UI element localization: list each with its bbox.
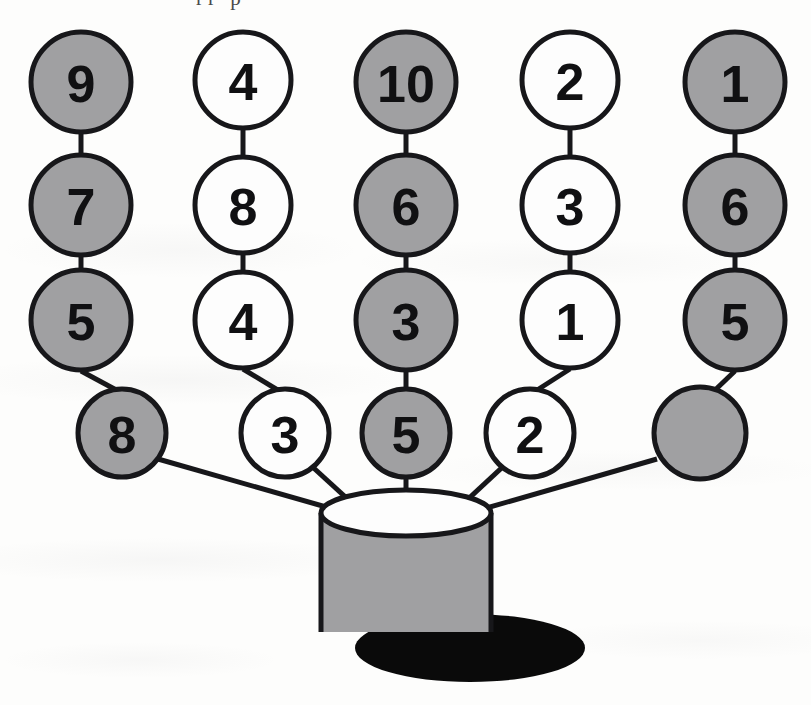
node-c3r4[interactable]: 5 [362, 389, 450, 477]
node-label-c3r3: 3 [392, 293, 421, 351]
node-c2r4[interactable]: 3 [241, 389, 329, 477]
node-c1r1[interactable]: 9 [31, 32, 131, 132]
node-label-c3r1: 10 [377, 55, 435, 113]
node-label-c5r3: 5 [721, 293, 750, 351]
node-c2r3[interactable]: 4 [195, 272, 291, 368]
node-c4r1[interactable]: 2 [522, 32, 618, 128]
node-c5r4[interactable] [654, 387, 746, 479]
node-label-c2r2: 8 [229, 178, 258, 236]
node-label-c5r1: 1 [721, 55, 750, 113]
node-c5r1[interactable]: 1 [685, 32, 785, 132]
node-label-c1r1: 9 [67, 55, 96, 113]
node-label-c4r1: 2 [556, 53, 585, 111]
node-c3r3[interactable]: 3 [356, 270, 456, 370]
node-c5r2[interactable]: 6 [685, 155, 785, 255]
node-c1r2[interactable]: 7 [31, 155, 131, 255]
node-label-c2r3: 4 [229, 293, 258, 351]
pot-rim-ellipse [321, 490, 491, 536]
node-label-c4r4: 2 [516, 406, 545, 464]
node-label-c5r2: 6 [721, 178, 750, 236]
node-c4r3[interactable]: 1 [522, 272, 618, 368]
node-label-c3r2: 6 [392, 178, 421, 236]
node-c2r2[interactable]: 8 [195, 157, 291, 253]
node-c1r3[interactable]: 5 [31, 270, 131, 370]
node-label-c1r3: 5 [67, 293, 96, 351]
node-c1r4[interactable]: 8 [78, 389, 166, 477]
node-c4r4[interactable]: 2 [486, 389, 574, 477]
node-label-c2r1: 4 [229, 53, 258, 111]
node-label-c2r4: 3 [271, 406, 300, 464]
node-c3r1[interactable]: 10 [356, 32, 456, 132]
node-c3r2[interactable]: 6 [356, 155, 456, 255]
node-label-c1r4: 8 [108, 406, 137, 464]
balloon-chain-diagram: 9 4 10 2 1 7 8 6 [0, 0, 811, 705]
node-label-c3r4: 5 [392, 406, 421, 464]
node-circle-c5r4[interactable] [654, 387, 746, 479]
node-c4r2[interactable]: 3 [522, 157, 618, 253]
node-c5r3[interactable]: 5 [685, 270, 785, 370]
node-label-c4r2: 3 [556, 178, 585, 236]
node-c2r1[interactable]: 4 [195, 32, 291, 128]
node-label-c4r3: 1 [556, 293, 585, 351]
node-label-c1r2: 7 [67, 178, 96, 236]
puzzle-figure-canvas: rr p [0, 0, 811, 705]
